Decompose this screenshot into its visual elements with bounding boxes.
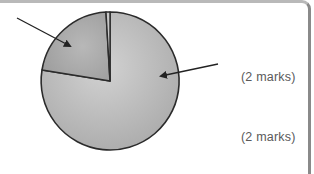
marks-label-1: (2 marks)	[241, 70, 296, 84]
pie-slice-medium	[42, 12, 110, 81]
marks-label-2: (2 marks)	[241, 130, 296, 144]
pie-chart	[0, 0, 314, 174]
